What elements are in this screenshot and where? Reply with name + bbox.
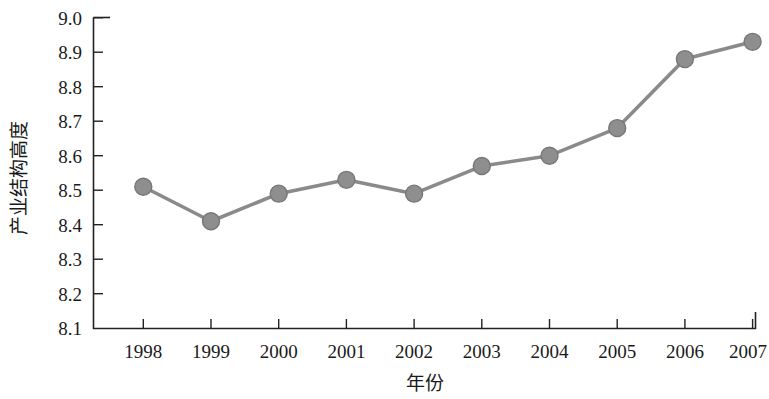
line-chart: 9.0 8.9 8.8 8.7 8.6 8.5 8.4 8.3 8.2 8.1 xyxy=(0,0,769,399)
x-tick-label: 2003 xyxy=(463,341,501,362)
data-point xyxy=(338,171,355,188)
x-tick-label: 2000 xyxy=(260,341,298,362)
x-tick-label: 1999 xyxy=(192,341,230,362)
x-tick-label: 1998 xyxy=(124,341,162,362)
data-point xyxy=(676,51,693,68)
y-tick-label: 8.9 xyxy=(58,42,82,63)
x-tick-label: 2005 xyxy=(598,341,636,362)
x-tick-label: 2001 xyxy=(327,341,365,362)
data-point xyxy=(541,147,558,164)
y-tick-label: 8.6 xyxy=(58,146,82,167)
y-tick-label: 8.8 xyxy=(58,77,82,98)
x-tick-label: 2007 xyxy=(729,341,767,362)
data-point xyxy=(135,178,152,195)
y-tick-label: 8.3 xyxy=(58,249,82,270)
chart-figure: 9.0 8.9 8.8 8.7 8.6 8.5 8.4 8.3 8.2 8.1 xyxy=(0,0,769,399)
chart-background xyxy=(0,0,769,399)
y-tick-label: 8.1 xyxy=(58,318,82,339)
x-tick-label: 2004 xyxy=(531,341,570,362)
y-axis-title: 产业结构高度 xyxy=(9,121,30,235)
data-point xyxy=(744,33,761,50)
data-point xyxy=(473,158,490,175)
y-tick-label: 8.4 xyxy=(58,215,82,236)
y-tick-label: 9.0 xyxy=(58,8,82,29)
x-axis-title: 年份 xyxy=(406,373,444,394)
y-tick-label: 8.2 xyxy=(58,284,82,305)
x-tick-label: 2002 xyxy=(395,341,433,362)
y-tick-label: 8.7 xyxy=(58,111,82,132)
data-point xyxy=(609,120,626,137)
data-point xyxy=(203,213,220,230)
y-tick-label: 8.5 xyxy=(58,180,82,201)
x-tick-label: 2006 xyxy=(666,341,704,362)
data-point xyxy=(270,185,287,202)
data-point xyxy=(406,185,423,202)
